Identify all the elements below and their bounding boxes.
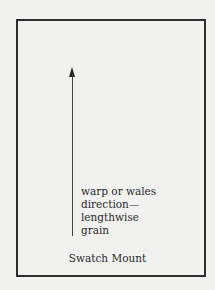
label-line-1: warp or wales (81, 185, 156, 198)
swatch-mount-frame (16, 19, 206, 277)
label-line-4: grain (81, 224, 156, 237)
diagram-caption: Swatch Mount (0, 252, 215, 264)
grain-direction-arrow (72, 74, 73, 236)
label-line-2: direction— (81, 198, 156, 211)
grain-direction-label: warp or wales direction— lengthwise grai… (81, 185, 156, 237)
label-line-3: lengthwise (81, 211, 156, 224)
